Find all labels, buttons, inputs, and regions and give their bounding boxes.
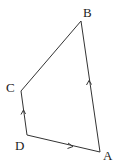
- vertex-labels: A B C D: [6, 5, 113, 163]
- vertex-label-c: C: [6, 80, 15, 95]
- quadrilateral-diagram: A B C D: [0, 0, 118, 163]
- arrow-icon-ab: [87, 81, 92, 86]
- vertex-label-a: A: [103, 148, 113, 163]
- edge-b-c: [21, 21, 81, 91]
- arrow-icon-dc: [21, 110, 26, 115]
- edge-a-b: [81, 21, 100, 152]
- vertex-label-d: D: [15, 138, 24, 153]
- vertex-label-b: B: [83, 5, 92, 20]
- direction-arrows: [21, 81, 92, 149]
- edge-d-a: [27, 135, 100, 152]
- edges: [21, 21, 100, 152]
- arrow-icon-da: [68, 143, 74, 149]
